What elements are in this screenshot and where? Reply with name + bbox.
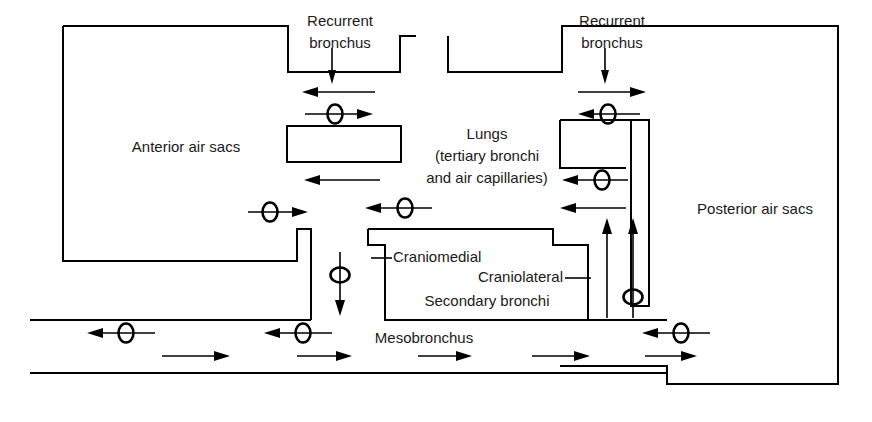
label-posterior-air-sacs: Posterior air sacs [697,200,813,217]
label-recurrent-bronchus-right-line1: Recurrent [579,12,646,29]
diagram-canvas: Anterior air sacs Recurrent bronchus Rec… [0,0,872,422]
flow-marker-mesobronchus-inhale-5 [645,351,697,361]
flow-marker-recurrent-right-entry [601,48,609,84]
label-lungs-line3: and air capillaries) [426,169,548,186]
flow-marker-posterior-to-lung-plain [602,218,612,318]
label-secondary-bronchi: Secondary bronchi [424,292,549,309]
respiratory-flow-diagram: Anterior air sacs Recurrent bronchus Rec… [0,0,872,422]
flow-marker-mesobronchus-exhale-center [264,324,332,343]
flow-marker-mesobronchus-inhale-2 [297,351,352,361]
label-recurrent-bronchus-left-line1: Recurrent [307,12,374,29]
flow-marker-mesobronchus-inhale-3 [418,351,472,361]
label-recurrent-bronchus-left-line2: bronchus [309,34,371,51]
flow-marker-mesobronchus-exhale-left [87,324,155,343]
label-anterior-air-sacs: Anterior air sacs [132,138,240,155]
lung-left-chamber [287,126,401,162]
label-lungs-line1: Lungs [467,125,508,142]
anterior-air-sacs-left-wall [63,26,311,320]
label-lungs-line2: (tertiary bronchi [435,147,539,164]
flow-marker-recurrent-left-entry [328,48,336,84]
flow-marker-mesobronchus-exhale-right [642,324,710,343]
flow-marker-posterior-to-lung-valved [624,218,643,318]
label-mesobronchus: Mesobronchus [375,329,473,346]
flow-marker-mesobronchus-inhale-4 [532,351,590,361]
flow-marker-mesobronchus-to-anterior [331,252,350,316]
flow-marker-recurrent-left-exhale [302,87,375,97]
label-craniomedial: Craniomedial [393,248,481,265]
flow-marker-recurrent-right-inhale [578,87,646,97]
flow-marker-craniomedial-outflow [365,199,432,218]
flow-marker-craniolateral-outflow [560,203,626,213]
lung-right-inner-box [560,120,626,168]
label-craniolateral: Craniolateral [478,268,563,285]
flow-marker-anterior-sac-inflow [248,203,308,222]
flow-marker-recurrent-left-inhale [305,105,373,124]
flow-marker-right-lung-outflow [562,171,628,190]
flow-marker-mesobronchus-inhale-1 [162,351,230,361]
label-recurrent-bronchus-right-line2: bronchus [581,34,643,51]
flow-marker-lung-to-anterior-sac [304,175,380,185]
mesobronchus-lower-wall [30,373,667,384]
